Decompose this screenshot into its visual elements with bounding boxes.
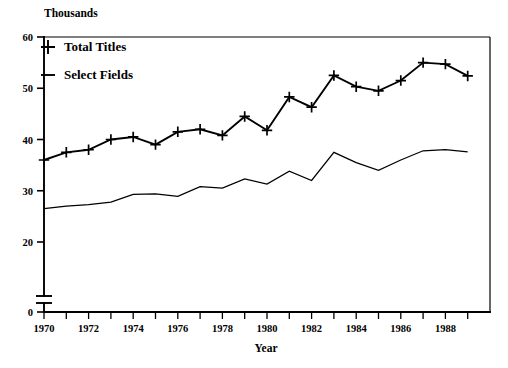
data-point-marker <box>150 139 160 149</box>
data-point-marker <box>373 86 383 96</box>
chart-legend: Total Titles Select Fields <box>41 39 133 82</box>
data-point-marker <box>106 134 116 144</box>
x-axis-title: Year <box>255 342 278 354</box>
x-axis-caption-group: Year <box>255 342 278 354</box>
x-axis-tick-label: 1980 <box>257 323 278 334</box>
x-axis-tick-label: 1970 <box>34 323 55 334</box>
x-axis-tick-label: 1988 <box>435 323 456 334</box>
y-axis-tick-label: 0 <box>28 307 33 318</box>
x-axis-tick-labels: 1970197219741976197819801982198419861988 <box>34 323 456 334</box>
chart-container: Thousands 02030405060 197019721974197619… <box>0 0 508 368</box>
x-axis-tick-label: 1978 <box>212 323 233 334</box>
y-axis-tick-label: 60 <box>23 32 34 43</box>
x-axis-tick-label: 1984 <box>346 323 368 334</box>
y-axis-tick-label: 40 <box>23 135 34 146</box>
data-point-marker <box>262 125 272 135</box>
data-point-marker <box>463 71 473 81</box>
series-select-fields <box>44 150 468 209</box>
x-axis-tick-label: 1974 <box>123 323 145 334</box>
legend-label-total-titles: Total Titles <box>64 39 126 54</box>
y-axis-tick-label: 50 <box>23 83 34 94</box>
data-point-marker <box>440 59 450 69</box>
data-point-marker <box>173 127 183 137</box>
x-axis-tick-label: 1982 <box>301 323 322 334</box>
select-fields-line <box>44 150 468 209</box>
y-axis-ticks <box>37 37 44 312</box>
y-axis-tick-label: 20 <box>23 237 34 248</box>
y-axis-unit-label: Thousands <box>44 7 98 19</box>
data-point-marker <box>195 124 205 134</box>
y-axis-tick-labels: 02030405060 <box>23 32 34 318</box>
legend-label-select-fields: Select Fields <box>64 67 133 82</box>
data-point-marker <box>351 82 361 92</box>
data-point-marker <box>128 132 138 142</box>
legend-entry-total-titles: Total Titles <box>41 39 126 54</box>
unit-note-group: Thousands <box>44 7 98 19</box>
data-point-marker <box>284 92 294 102</box>
x-axis-ticks <box>44 312 468 319</box>
x-axis-tick-label: 1986 <box>390 323 411 334</box>
data-point-marker <box>61 147 71 157</box>
x-axis-tick-label: 1976 <box>167 323 188 334</box>
line-chart-svg: Thousands 02030405060 197019721974197619… <box>0 0 508 368</box>
y-axis-tick-label: 30 <box>23 186 34 197</box>
data-point-marker <box>39 155 49 165</box>
legend-entry-select-fields: Select Fields <box>41 67 133 82</box>
data-point-marker <box>83 145 93 155</box>
x-axis-tick-label: 1972 <box>78 323 99 334</box>
